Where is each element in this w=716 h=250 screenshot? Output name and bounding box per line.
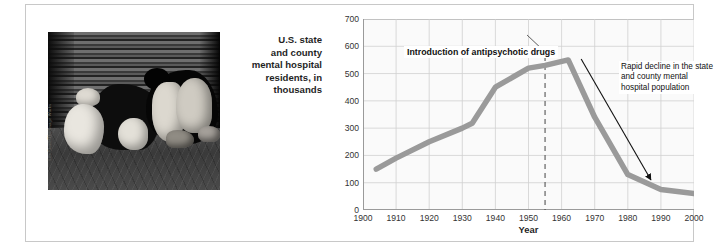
y-axis-title-line: and county [226, 47, 322, 60]
x-axis-title: Year [363, 224, 694, 235]
photo-credit: Les Stone/The Image Works [47, 21, 52, 161]
y-tick-label: 100 [325, 178, 359, 188]
y-axis-tick-labels: 0100200300400500600700 [321, 19, 359, 210]
photo-figure-shoe-a [166, 130, 194, 148]
photo-block: Les Stone/The Image Works [34, 32, 222, 192]
y-tick-label: 300 [325, 123, 359, 133]
annotation-rapid-decline: Rapid decline in the state and county me… [619, 61, 715, 94]
photo-figure-light-a [64, 104, 104, 154]
annotation-antipsychotic-drugs: Introduction of antipsychotic drugs [404, 46, 558, 58]
y-axis-title-line: U.S. state [226, 34, 322, 47]
x-tick-label: 2000 [672, 213, 716, 223]
y-axis-title-line: mental hospital [226, 59, 322, 72]
y-axis-title: U.S. stateand countymental hospitalresid… [226, 34, 322, 97]
y-tick-label: 700 [325, 14, 359, 24]
photo-figure-light-b [118, 118, 148, 150]
y-tick-label: 200 [325, 150, 359, 160]
y-axis-title-line: residents, in [226, 72, 322, 85]
photo-figure-shoe-b [198, 126, 220, 142]
figure-container: Les Stone/The Image Works U.S. stateand … [25, 4, 694, 242]
y-tick-label: 600 [325, 41, 359, 51]
y-tick-label: 500 [325, 69, 359, 79]
y-tick-label: 400 [325, 96, 359, 106]
photograph [48, 32, 220, 190]
chart-block: U.S. stateand countymental hospitalresid… [226, 10, 694, 240]
photo-figure-light-d [176, 78, 212, 133]
y-axis-title-line: thousands [226, 84, 322, 97]
